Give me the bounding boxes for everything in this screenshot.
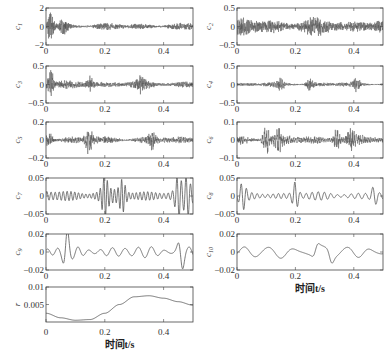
signal-line-c7 <box>46 176 193 218</box>
y-tick-label: 0.5 <box>224 3 236 13</box>
y-tick-label: −0.05 <box>23 209 44 219</box>
x-tick-label: 0.2 <box>99 271 110 281</box>
x-tick-label: 0.4 <box>348 271 360 281</box>
signal-line-c10 <box>237 244 383 264</box>
y-axis-label-c2: c2 <box>203 23 214 30</box>
emd-decomposition-figure: −20200.20.4c1−0.500.500.20.4c2−0.500.500… <box>0 0 386 351</box>
x-tick-label: 0.2 <box>290 46 301 56</box>
panel-c7: −0.0500.0500.20.4c7 <box>12 173 193 225</box>
y-tick-label: −0.5 <box>219 98 236 108</box>
panel-c10: −0.0200.0200.20.4c10时间t/s <box>203 229 383 294</box>
signal-line-c3 <box>46 70 193 96</box>
signal-line-c2 <box>237 17 383 36</box>
y-tick-label: 0 <box>40 22 45 32</box>
y-tick-label: 0.5 <box>33 61 45 71</box>
y-tick-label: −0.02 <box>214 265 235 275</box>
y-tick-label: 0.5 <box>224 61 236 71</box>
x-tick-label: 0.2 <box>99 159 110 169</box>
signal-line-c8 <box>237 182 383 210</box>
y-tick-label: 0.02 <box>219 229 235 239</box>
axes-box-c10 <box>237 234 383 270</box>
y-tick-label: 0.1 <box>224 117 235 127</box>
panel-c8: −0.0500.0500.20.4c8 <box>203 173 383 225</box>
x-tick-label: 0.4 <box>348 215 360 225</box>
y-tick-label: 0.2 <box>33 117 44 127</box>
x-tick-label: 0.2 <box>290 215 301 225</box>
y-axis-label-c10: c10 <box>203 247 214 257</box>
signal-line-r <box>46 296 193 321</box>
x-tick-label: 0.4 <box>158 271 170 281</box>
x-tick-label: 0.4 <box>158 104 170 114</box>
y-tick-label: 0 <box>231 80 236 90</box>
y-axis-label-c4: c4 <box>203 81 214 88</box>
y-axis-label-r: r <box>12 302 22 306</box>
y-axis-label-c6: c6 <box>203 137 214 144</box>
y-axis-label-c1: c1 <box>12 23 23 30</box>
x-tick-label: 0 <box>235 104 240 114</box>
x-tick-label: 0.2 <box>290 159 301 169</box>
x-tick-label: 0 <box>44 159 49 169</box>
y-tick-label: −0.1 <box>219 153 235 163</box>
panel-c2: −0.500.500.20.4c2 <box>203 3 383 56</box>
x-tick-label: 0 <box>235 46 240 56</box>
y-tick-label: −0.2 <box>28 153 44 163</box>
y-tick-label: 0 <box>40 247 45 257</box>
x-tick-label: 0.2 <box>99 327 110 337</box>
axes-box-c9 <box>46 234 193 270</box>
signal-line-c1 <box>46 13 193 39</box>
x-tick-label: 0 <box>44 215 49 225</box>
x-tick-label: 0 <box>44 271 49 281</box>
y-tick-label: 0.01 <box>28 282 44 292</box>
x-tick-label: 0 <box>44 104 49 114</box>
x-tick-label: 0.4 <box>158 327 170 337</box>
y-tick-label: 0 <box>40 135 45 145</box>
y-axis-label-c5: c5 <box>12 137 23 144</box>
x-tick-label: 0.4 <box>348 104 360 114</box>
x-tick-label: 0 <box>44 46 49 56</box>
y-tick-label: 0 <box>40 80 45 90</box>
panel-c1: −20200.20.4c1 <box>12 3 193 56</box>
y-tick-label: −0.5 <box>28 98 45 108</box>
signal-line-c9 <box>46 230 193 269</box>
panel-c5: −0.200.200.20.4c5 <box>12 117 193 169</box>
signal-line-c5 <box>46 131 193 154</box>
y-tick-label: 0.005 <box>24 300 45 310</box>
y-tick-label: 0 <box>231 247 236 257</box>
x-tick-label: 0.2 <box>290 104 301 114</box>
y-axis-label-c3: c3 <box>12 81 23 88</box>
x-tick-label: 0 <box>235 159 240 169</box>
y-tick-label: 0 <box>231 22 236 32</box>
x-tick-label: 0 <box>235 215 240 225</box>
y-tick-label: 0.05 <box>28 173 44 183</box>
y-tick-label: −0.02 <box>23 265 44 275</box>
y-axis-label-c9: c9 <box>12 249 23 256</box>
y-tick-label: 0.02 <box>28 229 44 239</box>
y-axis-label-c7: c7 <box>12 192 23 200</box>
x-axis-label: 时间t/s <box>295 282 325 294</box>
x-tick-label: 0.4 <box>158 46 170 56</box>
x-tick-label: 0.4 <box>158 215 170 225</box>
x-axis-label: 时间t/s <box>105 338 135 350</box>
y-tick-label: 0 <box>231 191 236 201</box>
panel-c6: −0.100.100.20.4c6 <box>203 117 383 169</box>
x-tick-label: 0.4 <box>348 159 360 169</box>
y-tick-label: −0.05 <box>214 209 235 219</box>
x-tick-label: 0 <box>44 327 49 337</box>
x-tick-label: 0.2 <box>290 271 301 281</box>
panel-c3: −0.500.500.20.4c3 <box>12 61 193 114</box>
panel-c9: −0.0200.0200.20.4c9 <box>12 229 193 281</box>
y-tick-label: −2 <box>34 40 44 50</box>
y-tick-label: 2 <box>40 3 45 13</box>
x-tick-label: 0.4 <box>348 46 360 56</box>
x-tick-label: 0.2 <box>99 46 110 56</box>
y-tick-label: 0 <box>231 135 236 145</box>
y-tick-label: 0.05 <box>219 173 235 183</box>
x-tick-label: 0.2 <box>99 104 110 114</box>
signal-line-c4 <box>237 78 383 92</box>
signal-line-c6 <box>237 128 383 154</box>
y-axis-label-c8: c8 <box>203 193 214 200</box>
x-tick-label: 0.4 <box>158 159 170 169</box>
x-tick-label: 0.2 <box>99 215 110 225</box>
x-tick-label: 0 <box>235 271 240 281</box>
y-tick-label: −0.5 <box>219 40 236 50</box>
